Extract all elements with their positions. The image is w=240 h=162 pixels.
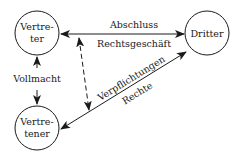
- dashed-double-arrow-icon: [79, 38, 89, 110]
- node-vertretener-line1: Vertre-: [19, 116, 53, 127]
- edge-dashed: [79, 38, 89, 110]
- node-vertreter: Vertre- ter: [15, 11, 59, 55]
- node-vertretener-line2: tener: [24, 128, 50, 139]
- node-dritter-label: Dritter: [191, 28, 224, 39]
- edge-verpflichtungen: Verpflichtungen Rechte: [61, 52, 186, 129]
- node-vertreter-line2: ter: [30, 33, 44, 44]
- edge-abschluss: Abschluss Rechtsgeschäft: [61, 19, 184, 49]
- diagonal-double-arrow-icon: [61, 52, 186, 129]
- edge-vollmacht: Vollmacht: [12, 57, 61, 104]
- edge-rechtsgeschaeft-label: Rechtsgeschäft: [97, 38, 171, 49]
- node-vertreter-line1: Vertre-: [19, 21, 53, 32]
- representation-diagram: Vertre- ter Dritter Vertre- tener Abschl…: [0, 0, 240, 162]
- edge-abschluss-label: Abschluss: [109, 19, 158, 30]
- edge-vollmacht-label: Vollmacht: [12, 73, 61, 84]
- node-dritter: Dritter: [185, 11, 229, 55]
- node-vertretener: Vertre- tener: [15, 106, 59, 150]
